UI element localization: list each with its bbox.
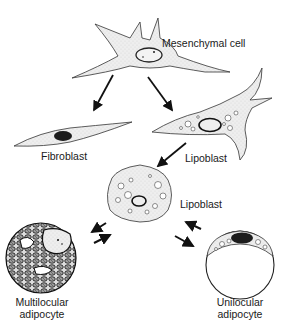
fibroblast-cell — [14, 122, 132, 146]
nucleus-icon — [231, 233, 253, 244]
unilocular-adipocyte-cell — [206, 231, 274, 299]
nucleus-icon — [132, 196, 146, 206]
label-lipoblast-round: Lipoblast — [180, 198, 222, 210]
arrow-to-multilocular — [92, 223, 106, 232]
label-line: adipocyte — [7, 308, 77, 320]
label-unilocular-adipocyte: Unilocular adipocyte — [205, 296, 275, 320]
arrow-to-unilocular — [175, 236, 193, 246]
label-lipoblast-elongated: Lipoblast — [185, 152, 227, 164]
nucleus-icon — [54, 131, 72, 141]
label-fibroblast: Fibroblast — [41, 150, 87, 162]
label-line: Unilocular — [205, 296, 275, 308]
label-line: adipocyte — [205, 308, 275, 320]
label-mesenchymal-cell: Mesenchymal cell — [162, 37, 245, 49]
multilocular-adipocyte-cell — [6, 223, 76, 293]
lipoblast-round-cell — [107, 165, 171, 222]
lipoblast-elongated-cell — [152, 68, 272, 160]
label-multilocular-adipocyte: Multilocular adipocyte — [7, 296, 77, 320]
arrow-from-unilocular — [186, 222, 201, 229]
arrow-to-fibroblast — [94, 75, 113, 110]
arrow-to-lipoblast-round — [158, 143, 186, 166]
label-line: Multilocular — [7, 296, 77, 308]
arrow-from-multilocular — [94, 235, 110, 243]
nucleus-icon — [136, 48, 162, 62]
diagram-canvas — [0, 0, 299, 329]
nucleus-icon — [199, 119, 221, 132]
arrow-to-lipoblast — [148, 77, 172, 110]
